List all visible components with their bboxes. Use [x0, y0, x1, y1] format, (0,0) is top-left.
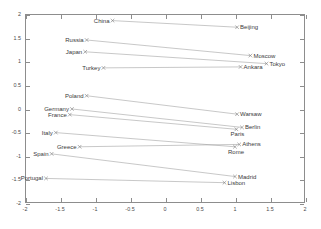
y-axis-tick — [26, 62, 30, 63]
scatter-plot-figure: -2-1.5-1-0.500.511.5221.510.50-0.5-1-1.5… — [0, 0, 321, 229]
point-label-china: China — [94, 17, 110, 24]
x-axis-tick-label: -2 — [23, 206, 28, 212]
point-label-athens: Athens — [242, 141, 261, 148]
y-axis-tick-label: -2 — [0, 200, 21, 206]
y-axis-tick — [26, 39, 30, 40]
point-label-rome: Rome — [228, 149, 244, 156]
point-label-turkey: Turkey — [82, 64, 100, 71]
x-axis-tick-label: -1 — [93, 206, 98, 212]
y-axis-tick — [26, 157, 30, 158]
point-label-poland: Poland — [65, 92, 84, 99]
x-axis-tick — [61, 198, 62, 202]
x-axis-tick — [131, 15, 132, 19]
y-axis-tick-label: -0.5 — [0, 129, 21, 135]
x-axis-tick-label: 1.5 — [266, 206, 274, 212]
point-label-ankara: Ankara — [244, 63, 263, 70]
y-axis-tick — [300, 62, 304, 63]
y-axis-tick — [26, 110, 30, 111]
y-axis-tick-label: -1.5 — [0, 176, 21, 182]
x-axis-tick — [201, 15, 202, 19]
x-axis-tick — [166, 15, 167, 19]
x-axis-tick — [201, 198, 202, 202]
y-axis-tick — [300, 15, 304, 16]
point-label-spain: Spain — [33, 150, 48, 157]
x-axis-tick — [131, 198, 132, 202]
point-label-italy: Italy — [42, 129, 53, 136]
y-axis-tick — [300, 180, 304, 181]
point-label-warsaw: Warsaw — [240, 111, 261, 118]
point-label-france: France — [48, 111, 67, 118]
point-label-tokyo: Tokyo — [270, 60, 286, 67]
x-axis-tick — [236, 198, 237, 202]
point-label-portugal: Portugal — [21, 175, 43, 182]
x-axis-tick-label: 2 — [304, 206, 307, 212]
x-axis-tick-label: 1 — [234, 206, 237, 212]
x-axis-tick — [271, 198, 272, 202]
x-axis-tick — [166, 198, 167, 202]
y-axis-tick — [300, 110, 304, 111]
point-label-lisbon: Lisbon — [228, 179, 246, 186]
y-axis-tick-label: 1.5 — [0, 35, 21, 41]
y-axis-tick — [26, 133, 30, 134]
y-axis-tick — [26, 86, 30, 87]
y-axis-tick-label: 1 — [0, 58, 21, 64]
y-axis-tick-label: -1 — [0, 153, 21, 159]
y-axis-tick — [26, 15, 30, 16]
y-axis-tick — [300, 86, 304, 87]
y-axis-tick — [300, 157, 304, 158]
point-label-japan: Japan — [66, 48, 82, 55]
x-axis-tick — [26, 198, 27, 202]
y-axis-tick — [300, 204, 304, 205]
y-axis-tick-label: 2 — [0, 11, 21, 17]
x-axis-tick — [306, 198, 307, 202]
x-axis-tick-label: 0.5 — [196, 206, 204, 212]
point-label-russia: Russia — [65, 36, 83, 43]
point-label-greece: Greece — [57, 143, 77, 150]
x-axis-tick — [271, 15, 272, 19]
y-axis-tick-label: 0 — [0, 106, 21, 112]
x-axis-tick-label: -0.5 — [125, 206, 134, 212]
point-label-moscow: Moscow — [253, 52, 275, 59]
x-axis-tick-label: 0 — [164, 206, 167, 212]
point-label-berlin: Berlin — [245, 124, 260, 131]
point-label-beijing: Beijing — [240, 24, 258, 31]
x-axis-tick — [61, 15, 62, 19]
x-axis-tick — [96, 198, 97, 202]
x-axis-tick — [306, 15, 307, 19]
y-axis-tick — [26, 204, 30, 205]
point-label-paris: Paris — [231, 131, 245, 138]
y-axis-tick — [300, 39, 304, 40]
y-axis-tick-label: 0.5 — [0, 82, 21, 88]
x-axis-tick-label: -1.5 — [55, 206, 64, 212]
x-axis-tick — [236, 15, 237, 19]
y-axis-tick — [300, 133, 304, 134]
